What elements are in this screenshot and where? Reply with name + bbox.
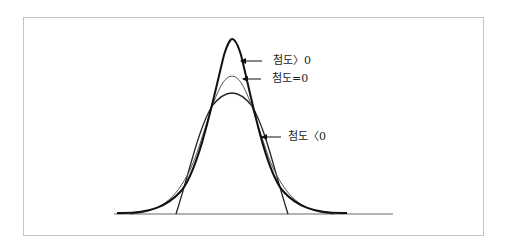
arrow-zero xyxy=(242,76,261,82)
label-kurtosis-positive: 첨도〉0 xyxy=(273,55,311,67)
kurtosis-diagram xyxy=(0,0,507,250)
label-kurtosis-negative: 첨도〈0 xyxy=(288,131,326,143)
curve-leptokurtic xyxy=(117,39,347,213)
label-kurtosis-zero: 첨도=0 xyxy=(272,73,308,85)
curve-platykurtic xyxy=(176,93,288,214)
curve-mesokurtic xyxy=(130,76,334,214)
